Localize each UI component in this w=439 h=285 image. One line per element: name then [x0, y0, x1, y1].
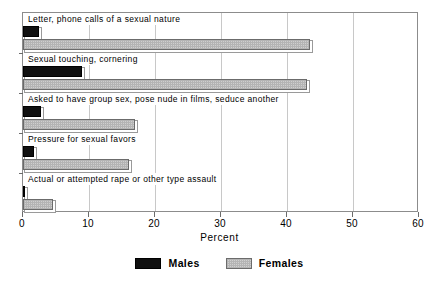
bar-females: [23, 159, 129, 170]
bar-females: [23, 119, 135, 130]
legend-swatch-males: [135, 258, 161, 269]
bar-group-label: Pressure for sexual favors: [27, 133, 137, 145]
bar-group: Asked to have group sex, pose nude in fi…: [23, 93, 417, 133]
bar-group: Letter, phone calls of a sexual nature: [23, 13, 417, 53]
bar-females: [23, 199, 53, 210]
bar-males: [23, 146, 34, 157]
x-axis-title: Percent: [0, 232, 439, 243]
legend-swatch-females: [226, 258, 252, 269]
bar-group: Actual or attempted rape or other type a…: [23, 173, 417, 213]
bar-males: [23, 26, 39, 37]
x-axis-tick-label: 60: [398, 218, 438, 229]
bar-females: [23, 39, 310, 50]
bar-chart: Letter, phone calls of a sexual natureSe…: [0, 0, 439, 285]
legend-label-females: Females: [259, 257, 304, 269]
bar-group: Pressure for sexual favors: [23, 133, 417, 173]
bar-group-label: Asked to have group sex, pose nude in fi…: [27, 93, 280, 105]
x-axis-tick: [154, 212, 155, 217]
x-axis-tick: [88, 212, 89, 217]
x-axis-tick: [418, 212, 419, 217]
x-axis-tick: [22, 212, 23, 217]
x-axis-tick-label: 20: [134, 218, 174, 229]
chart-legend: Males Females: [0, 257, 439, 269]
bar-group: Sexual touching, cornering: [23, 53, 417, 93]
x-axis-tick-label: 40: [266, 218, 306, 229]
bar-females: [23, 79, 307, 90]
bar-males: [23, 186, 25, 197]
bar-males: [23, 66, 82, 77]
plot-area: Letter, phone calls of a sexual natureSe…: [22, 12, 418, 212]
legend-entry-males: Males: [135, 257, 199, 269]
legend-entry-females: Females: [226, 257, 304, 269]
legend-label-males: Males: [168, 257, 199, 269]
bar-males: [23, 106, 41, 117]
bar-group-label: Sexual touching, cornering: [27, 53, 139, 65]
x-axis-tick-label: 30: [200, 218, 240, 229]
bar-group-label: Actual or attempted rape or other type a…: [27, 173, 218, 185]
x-axis-tick-label: 10: [68, 218, 108, 229]
x-axis-tick-label: 50: [332, 218, 372, 229]
x-axis-tick: [220, 212, 221, 217]
x-axis-tick: [286, 212, 287, 217]
x-axis-tick-label: 0: [2, 218, 42, 229]
bar-group-label: Letter, phone calls of a sexual nature: [27, 13, 181, 25]
x-axis-tick: [352, 212, 353, 217]
